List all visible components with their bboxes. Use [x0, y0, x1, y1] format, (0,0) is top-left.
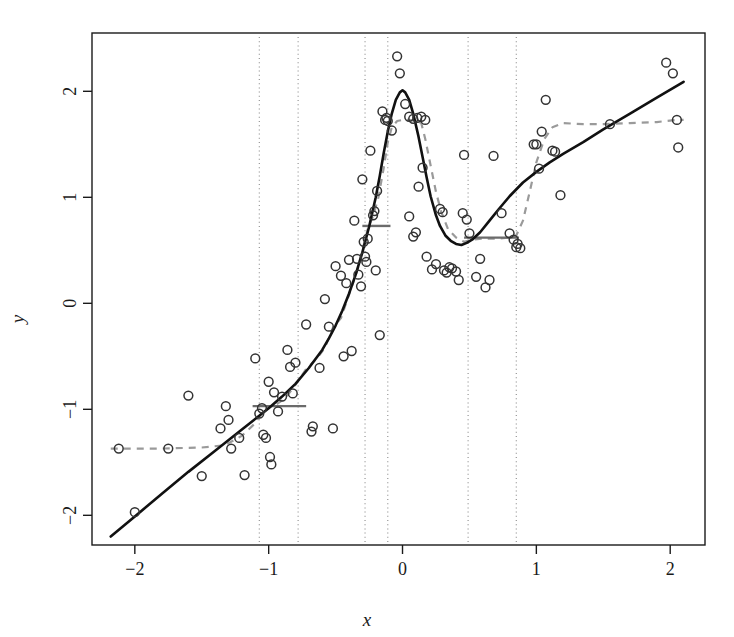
y-axis-label: y [7, 314, 29, 322]
x-tick-label-4: 2 [666, 559, 675, 579]
data-point [472, 272, 481, 281]
data-point [668, 69, 677, 78]
y-tick-label-3: 1 [60, 193, 80, 202]
data-point [221, 402, 230, 411]
data-point [184, 391, 193, 400]
data-point [485, 276, 494, 285]
data-point [339, 352, 348, 361]
data-point [458, 209, 467, 218]
true-function-path [111, 82, 684, 537]
data-point [662, 58, 671, 67]
data-point [347, 347, 356, 356]
data-point [537, 127, 546, 136]
y-tick-label-4: 2 [60, 87, 80, 96]
data-point [414, 182, 423, 191]
data-point [331, 262, 340, 271]
data-point [325, 322, 334, 331]
data-point [378, 107, 387, 116]
data-point [366, 146, 375, 155]
scatter-plot-svg: −2−1012 −2−1012 [0, 0, 734, 637]
data-point [329, 424, 338, 433]
data-point [454, 276, 463, 285]
data-point [320, 295, 329, 304]
data-point [395, 69, 404, 78]
data-point [240, 471, 249, 480]
y-tick-label-2: 0 [60, 299, 80, 308]
fitted-estimate-curve [111, 120, 684, 449]
x-tick-label-3: 1 [532, 559, 541, 579]
y-axis-ticks: −2−1012 [60, 87, 92, 525]
data-point [342, 279, 351, 288]
data-point [264, 377, 273, 386]
data-point [274, 407, 283, 416]
data-point [556, 191, 565, 200]
data-point [251, 354, 260, 363]
data-point [362, 258, 371, 267]
y-tick-label-1: −1 [60, 400, 80, 419]
data-point [393, 52, 402, 61]
data-point [476, 254, 485, 263]
data-point [315, 364, 324, 373]
data-point [497, 209, 506, 218]
data-point [674, 143, 683, 152]
data-point [283, 346, 292, 355]
data-point [227, 444, 236, 453]
data-point [489, 152, 498, 161]
y-tick-label-0: −2 [60, 506, 80, 525]
figure-panel: −2−1012 −2−1012 x y [0, 0, 734, 637]
data-point [197, 472, 206, 481]
x-tick-label-2: 0 [398, 559, 407, 579]
data-point [358, 175, 367, 184]
plot-frame [92, 33, 705, 545]
data-point [216, 424, 225, 433]
fitted-estimate-path [111, 120, 684, 449]
true-function-curve [111, 82, 684, 537]
data-point [308, 422, 317, 431]
data-point [460, 151, 469, 160]
x-axis-label: x [0, 609, 734, 631]
data-point [350, 216, 359, 225]
data-point [541, 95, 550, 104]
x-tick-label-0: −2 [125, 559, 144, 579]
data-point [405, 212, 414, 221]
data-point [357, 282, 366, 291]
data-point [462, 215, 471, 224]
data-point [224, 416, 233, 425]
local-level-segments [253, 226, 519, 406]
data-point [401, 100, 410, 109]
x-tick-label-1: −1 [259, 559, 278, 579]
x-axis-ticks: −2−1012 [125, 545, 674, 579]
data-point [422, 252, 431, 261]
data-point [371, 266, 380, 275]
data-point [302, 320, 311, 329]
data-point [375, 331, 384, 340]
